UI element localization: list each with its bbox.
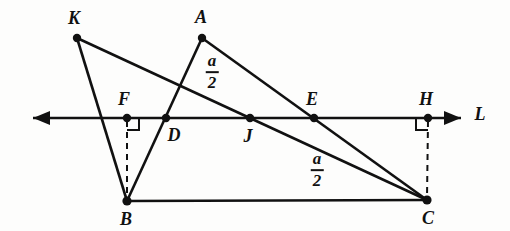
point-label-K: K xyxy=(68,9,80,27)
point-label-F: F xyxy=(118,90,130,108)
segment-B-C xyxy=(127,200,427,201)
fraction-denominator: 2 xyxy=(206,74,219,92)
point-label-B: B xyxy=(120,210,132,228)
point-dot-E xyxy=(310,114,318,122)
point-dot-B xyxy=(122,196,131,205)
point-dot-K xyxy=(73,34,81,42)
point-dot-A xyxy=(198,34,206,42)
point-dot-J xyxy=(246,114,254,122)
measure-label-upper-a-over-2: a 2 xyxy=(206,52,219,92)
point-label-A: A xyxy=(195,8,207,26)
point-label-D: D xyxy=(167,126,180,144)
point-dot-C xyxy=(422,195,431,204)
segment-K-B xyxy=(77,38,127,201)
line-L-arrow-right xyxy=(444,111,461,125)
line-label-L: L xyxy=(474,105,485,123)
point-label-C: C xyxy=(422,209,434,227)
geometry-figure: K A F D J E H B C L a 2 a 2 xyxy=(0,0,510,231)
point-label-E: E xyxy=(306,90,318,108)
line-L-arrow-left xyxy=(33,111,50,125)
point-label-H: H xyxy=(419,90,433,108)
fraction-denominator: 2 xyxy=(311,172,324,190)
point-dot-F xyxy=(123,114,131,122)
fraction-numerator: a xyxy=(206,52,219,70)
point-dot-H xyxy=(424,114,432,122)
fraction-numerator: a xyxy=(311,150,324,168)
segment-H-C xyxy=(427,121,428,198)
geometry-canvas xyxy=(0,0,510,231)
point-label-J: J xyxy=(243,127,252,145)
point-dot-D xyxy=(162,114,170,122)
measure-label-lower-a-over-2: a 2 xyxy=(311,150,324,190)
